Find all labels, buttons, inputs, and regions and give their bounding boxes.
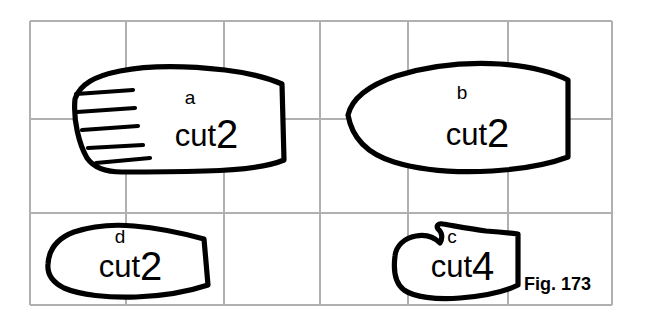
piece-a-cut-word: cut (175, 118, 217, 153)
piece-a-letter-label: a (185, 87, 196, 108)
piece-c-letter-label: c (447, 226, 457, 247)
piece-b-letter-label: b (457, 82, 468, 103)
piece-d-cut-count: 2 (140, 244, 162, 288)
piece-d: dcut2 (48, 225, 208, 297)
piece-d-letter-label: d (115, 226, 126, 247)
figure-caption: Fig. 173 (524, 274, 591, 294)
piece-b-cut-word: cut (446, 117, 488, 152)
piece-b-cut-count: 2 (487, 111, 509, 155)
piece-c-cut-count: 4 (472, 244, 494, 288)
piece-a: acut2 (75, 67, 284, 172)
piece-c: ccut4 (394, 224, 518, 299)
piece-c-cut-word: cut (431, 249, 473, 284)
figure-canvas: acut2bcut2ccut4dcut2 Fig. 173 (0, 0, 647, 331)
piece-b: bcut2 (348, 64, 568, 172)
piece-a-cut-count: 2 (216, 112, 238, 156)
piece-d-cut-word: cut (99, 249, 141, 284)
pattern-figure: acut2bcut2ccut4dcut2 Fig. 173 (0, 0, 647, 331)
piece-a-hatch-line-3 (88, 145, 143, 148)
